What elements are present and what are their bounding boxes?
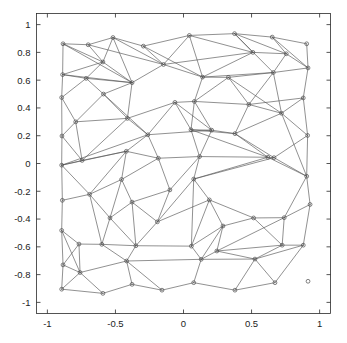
mesh-edge [194,283,235,291]
mesh-plot: -1-0.500.5110.80.60.40.20-0.2-0.4-0.6-0.… [0,0,347,343]
mesh-edge [194,101,211,130]
y-tick-label: -0.2 [14,186,30,197]
mesh-edge [110,218,136,246]
mesh-edge [255,259,275,283]
mesh-edge [80,273,103,294]
mesh-edge [90,179,122,194]
mesh-node [306,279,310,283]
x-tick-label: 0.5 [245,318,258,329]
mesh-edge [122,179,132,202]
mesh-edge [191,130,200,157]
mesh-edge [235,134,268,158]
mesh-edge [189,35,202,77]
mesh-edge [303,98,307,136]
mesh-edge [303,68,308,98]
mesh-edge [63,75,132,83]
x-tick-label: 0 [181,318,186,329]
mesh-edge [303,204,310,245]
mesh-edge [113,38,164,65]
mesh-edge [62,136,82,160]
mesh-edge [132,190,170,202]
mesh-edge [163,52,252,64]
mesh-edge [235,34,273,37]
mesh-edge [189,34,234,36]
mesh-edge [103,94,147,135]
mesh-edge [191,130,268,158]
mesh-edge [79,244,80,272]
mesh-edge [63,44,88,45]
y-tick-label: -0.4 [14,213,30,224]
mesh-edge [103,83,132,94]
mesh-edge [110,179,122,217]
mesh-edge [175,102,212,130]
mesh-edge [235,259,255,290]
y-tick-label: 0 [25,158,30,169]
mesh-edge [132,202,136,246]
mesh-edge [307,135,308,176]
mesh-edge [235,134,274,158]
mesh-edge [194,101,248,104]
mesh-edge [274,158,307,177]
mesh-edge [307,176,310,204]
mesh-edge [194,179,210,200]
mesh-edge [102,244,136,245]
axis-tick-labels: -1-0.500.5110.80.60.40.20-0.2-0.4-0.6-0.… [14,19,322,328]
y-tick-label: 1 [25,19,30,30]
mesh-edge [62,165,63,200]
mesh-edge [272,37,308,68]
mesh-edge [126,135,148,152]
mesh-edge [201,226,223,259]
mesh-edge [88,38,113,45]
mesh-edge [191,246,201,259]
mesh-edge [253,52,286,53]
mesh-edge [200,130,212,156]
y-tick-label: 0.6 [17,75,30,86]
mesh-edge [273,68,308,73]
mesh-edge [157,179,193,222]
y-tick-label: -0.6 [14,241,30,252]
mesh-edge [163,35,189,64]
mesh-edge [194,259,201,282]
mesh-edge [209,200,223,226]
mesh-edge [62,75,63,98]
mesh-edge [189,35,253,52]
mesh-edge [163,64,202,77]
mesh-edge [157,200,209,222]
mesh-edge [191,200,209,246]
mesh-edge [103,284,132,293]
y-tick-label: -1 [22,297,30,308]
plot-border [37,14,331,314]
mesh-edge [76,122,82,161]
mesh-edge [273,54,286,73]
mesh-edge [194,77,202,101]
mesh-edge [158,158,170,190]
mesh-edge [127,83,132,119]
mesh-edge [126,151,158,158]
mesh-edge [282,218,284,246]
mesh-edge [217,251,255,259]
mesh-edge [62,165,90,194]
mesh-edge [275,245,303,283]
mesh-edge [286,54,308,68]
mesh-edge [127,259,202,261]
mesh-edge [235,34,287,54]
mesh-edge [175,102,191,129]
mesh-edge [86,78,103,94]
mesh-edge [307,44,308,68]
y-tick-label: 0.4 [17,102,30,113]
axes-box [37,14,331,314]
mesh-edge [136,222,158,246]
mesh-edge [132,64,163,82]
mesh-edge [62,200,63,230]
mesh-edge [127,261,162,290]
mesh-edge [194,158,274,179]
mesh-edge [235,104,249,133]
mesh-edge [191,226,223,246]
mesh-edge-group [62,34,310,294]
mesh-edge [62,289,103,293]
mesh-edge [235,283,275,291]
mesh-edge [62,265,63,289]
figure-container: -1-0.500.5110.80.60.40.20-0.2-0.4-0.6-0.… [0,0,347,343]
mesh-edge [235,113,282,133]
mesh-edge [274,135,308,157]
